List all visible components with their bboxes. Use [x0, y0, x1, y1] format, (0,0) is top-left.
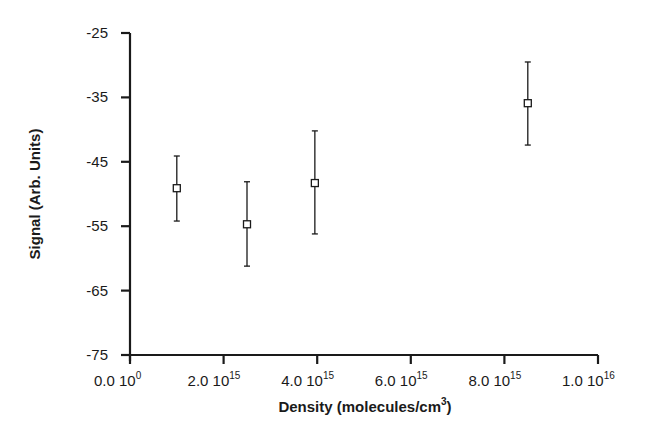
y-tick-label: -75 [86, 346, 108, 363]
data-point [311, 131, 318, 234]
y-tick-label: -25 [86, 24, 108, 41]
data-series [173, 62, 531, 266]
y-tick-label: -45 [86, 153, 108, 170]
square-marker-icon [524, 100, 531, 107]
data-point [173, 156, 180, 221]
x-tick-label: 1.0 1016 [562, 370, 615, 389]
x-tick-label: 4.0 1015 [281, 370, 334, 389]
data-point [244, 182, 251, 266]
square-marker-icon [244, 221, 251, 228]
x-tick-label: 8.0 1015 [468, 370, 521, 389]
data-point [524, 62, 531, 145]
square-marker-icon [311, 180, 318, 187]
chart: -25-35-45-55-65-75 0.0 1002.0 10154.0 10… [0, 0, 653, 436]
x-tick-label: 6.0 1015 [375, 370, 428, 389]
square-marker-icon [173, 185, 180, 192]
x-axis-title: Density (molecules/cm3) [278, 396, 451, 415]
axes [124, 33, 598, 361]
y-tick-label: -55 [86, 217, 108, 234]
y-tick-label: -65 [86, 282, 108, 299]
y-axis-title: Signal (Arb. Units) [26, 129, 43, 260]
x-axis-ticks: 0.0 1002.0 10154.0 10156.0 10158.0 10151… [94, 355, 615, 389]
x-tick-label: 2.0 1015 [188, 370, 241, 389]
y-axis-ticks: -25-35-45-55-65-75 [86, 24, 130, 363]
x-tick-label: 0.0 100 [94, 370, 142, 389]
y-tick-label: -35 [86, 88, 108, 105]
